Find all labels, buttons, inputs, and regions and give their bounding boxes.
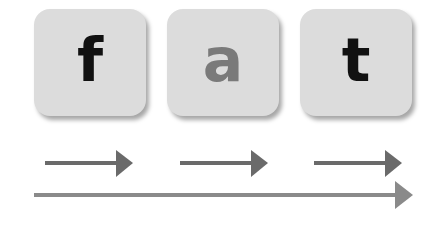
arrows-diagram [0,0,435,226]
short-arrow-2-icon [180,150,268,177]
short-arrow-1-icon [45,150,133,177]
long-arrow-icon [34,181,413,209]
short-arrow-3-icon [314,150,402,177]
